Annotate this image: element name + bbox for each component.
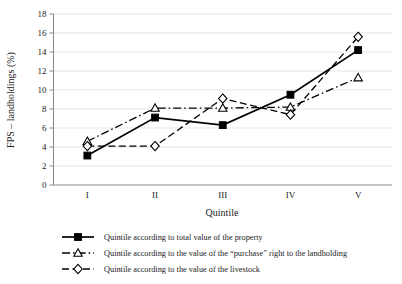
y-tick-label: 18 (38, 9, 48, 19)
data-point-marker (355, 47, 362, 54)
x-tick-label: III (218, 190, 227, 200)
line-chart: 024681012141618 IIIIIIIVV FPS – landhold… (0, 0, 402, 284)
data-point-marker (84, 152, 91, 159)
data-point-marker (152, 114, 159, 121)
data-point-marker (287, 91, 294, 98)
legend-marker-icon (75, 234, 82, 241)
x-axis-title: Quintile (206, 207, 239, 218)
y-tick-label: 14 (38, 47, 48, 57)
legend-label: Quintile according to the value of the l… (104, 265, 261, 274)
data-point-marker (219, 122, 226, 129)
legend-label: Quintile according to total value of the… (104, 233, 264, 242)
x-tick-label: V (355, 190, 362, 200)
y-tick-label: 0 (42, 180, 47, 190)
y-tick-label: 4 (42, 142, 47, 152)
legend-label: Quintile according to the value of the “… (104, 249, 347, 258)
y-tick-label: 6 (42, 123, 47, 133)
y-tick-label: 8 (42, 104, 47, 114)
y-tick-label: 12 (38, 66, 47, 76)
chart-figure: 024681012141618 IIIIIIIVV FPS – landhold… (0, 0, 402, 284)
x-tick-label: I (86, 190, 89, 200)
y-tick-label: 10 (38, 85, 48, 95)
x-tick-label: IV (286, 190, 296, 200)
legend-item[interactable]: Quintile according to the value of the “… (62, 249, 347, 258)
x-tick-label: II (152, 190, 158, 200)
y-tick-label: 16 (38, 28, 48, 38)
y-tick-label: 2 (42, 161, 47, 171)
y-axis-title: FPS – landholdings (%) (5, 52, 17, 148)
